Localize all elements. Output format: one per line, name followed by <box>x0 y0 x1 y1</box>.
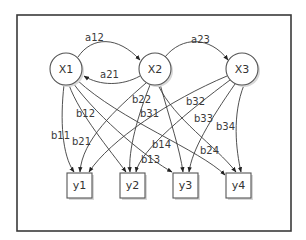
node-label: y1 <box>73 179 87 192</box>
label-b21: b21 <box>72 136 91 147</box>
label-a21: a21 <box>100 69 119 80</box>
node-label: X3 <box>235 63 250 76</box>
label-b14: b14 <box>152 139 171 150</box>
node-label: y3 <box>179 179 193 192</box>
label-b31: b31 <box>140 108 159 119</box>
label-b22: b22 <box>132 94 151 105</box>
label-b13: b13 <box>141 154 160 165</box>
label-b34: b34 <box>216 121 235 132</box>
diagram-canvas: X1 X2 X3 y1 y2 y3 y4 a12 a21 a23 b11 b12… <box>0 0 306 240</box>
node-y4: y4 <box>226 173 253 200</box>
node-label: X1 <box>59 63 74 76</box>
label-b33: b33 <box>194 113 213 124</box>
label-b24: b24 <box>200 145 219 156</box>
label-b12: b12 <box>76 108 95 119</box>
label-a23: a23 <box>191 34 210 45</box>
label-a12: a12 <box>85 32 104 43</box>
node-y3: y3 <box>173 173 200 200</box>
node-label: X2 <box>148 63 163 76</box>
label-b32: b32 <box>186 96 205 107</box>
label-b11: b11 <box>51 130 70 141</box>
node-label: y4 <box>232 179 246 192</box>
node-y1: y1 <box>67 173 94 200</box>
node-y2: y2 <box>120 173 147 200</box>
node-label: y2 <box>126 179 140 192</box>
